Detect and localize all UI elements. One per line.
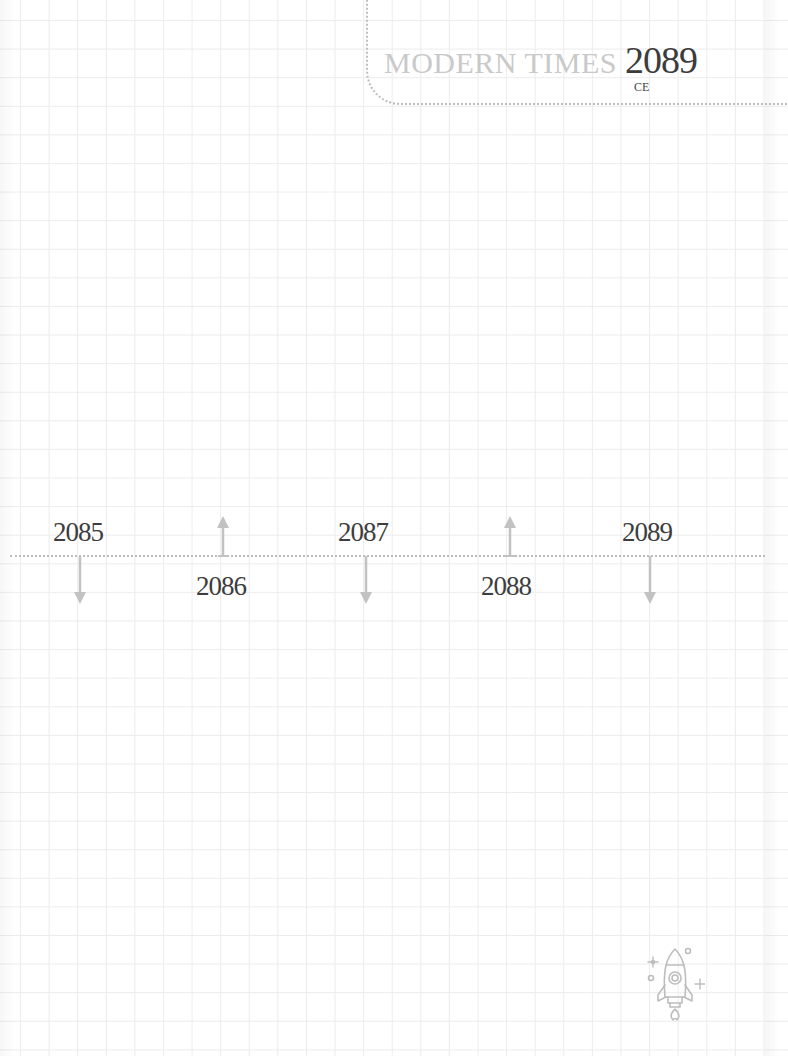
- era-label: MODERN TIMES: [384, 46, 617, 79]
- arrow-down-icon: [73, 556, 87, 606]
- era-suffix: CE: [634, 80, 649, 95]
- rocket-icon: [645, 945, 705, 1025]
- arrow-up-icon: [216, 514, 230, 558]
- arrow-down-icon: [643, 556, 657, 606]
- timeline-year-2088: 2088: [481, 571, 531, 602]
- arrow-down-icon: [359, 556, 373, 606]
- timeline-year-2089: 2089: [622, 517, 672, 548]
- timeline-year-2087: 2087: [338, 517, 388, 548]
- timeline-year-2085: 2085: [53, 517, 103, 548]
- timeline-year-2086: 2086: [196, 571, 246, 602]
- era-year: 2089: [625, 39, 697, 81]
- arrow-up-icon: [503, 514, 517, 558]
- page-title: MODERN TIMES2089: [384, 38, 697, 82]
